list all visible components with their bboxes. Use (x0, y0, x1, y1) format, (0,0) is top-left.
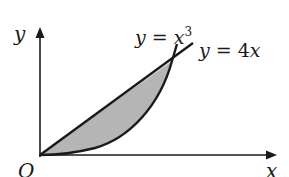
cubic-label-var: x (174, 26, 185, 48)
cubic-label-lhs: y (134, 26, 146, 48)
x-axis-label: x (266, 159, 277, 177)
line-label-var: x (250, 39, 261, 61)
line-label-lhs: y (198, 39, 210, 61)
y-axis-arrow-icon (36, 27, 45, 38)
diagram-canvas: y O x y = x3 y = 4x (0, 0, 289, 177)
cubic-label-eq: = (146, 26, 174, 48)
line-label: y = 4x (198, 39, 261, 61)
line-label-eq: = 4 (210, 39, 250, 61)
y-axis-label: y (13, 22, 26, 46)
cubic-label: y = x3 (134, 25, 192, 48)
origin-label: O (18, 159, 34, 177)
cubic-label-exp: 3 (184, 25, 192, 39)
